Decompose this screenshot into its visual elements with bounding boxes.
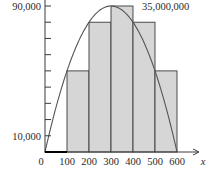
x-tick-label-600: 600 <box>169 156 185 167</box>
y-tick-label-90000: 90,000 <box>12 1 41 12</box>
bar-300-400 <box>111 6 133 152</box>
x-tick-label-200: 200 <box>81 156 97 167</box>
x-tick-label-400: 400 <box>125 156 141 167</box>
y-tick-label-10000: 10,000 <box>12 131 41 142</box>
bar-100-200 <box>67 71 89 152</box>
y-ticks <box>45 6 51 136</box>
annotation-total: 35,000,000 <box>142 1 189 12</box>
x-axis-label: x <box>200 156 206 167</box>
x-tick-label-0: 0 <box>38 156 43 167</box>
x-tick-label-100: 100 <box>59 156 75 167</box>
x-tick-label-300: 300 <box>103 156 119 167</box>
bars-group <box>67 6 177 152</box>
bar-200-300 <box>89 22 111 152</box>
x-tick-label-500: 500 <box>147 156 163 167</box>
riemann-sum-chart: 90,000 10,000 35,000,000 0 100 200 300 4… <box>0 0 212 186</box>
